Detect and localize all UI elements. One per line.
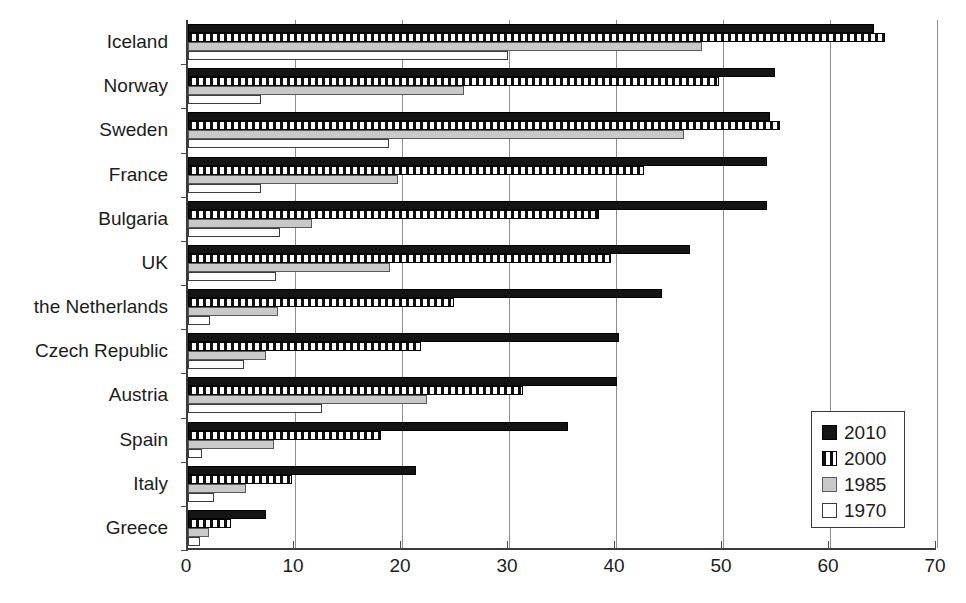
y-axis-tick	[181, 329, 188, 330]
legend-label-2010: 2010	[844, 423, 886, 442]
x-axis-tick-60	[828, 541, 829, 550]
y-label-norway: Norway	[0, 76, 178, 95]
y-axis-tick	[181, 197, 188, 198]
y-label-czech-republic: Czech Republic	[0, 341, 178, 360]
bar-bulgaria-1970	[188, 228, 280, 237]
legend-label-2000: 2000	[844, 449, 886, 468]
bar-uk-1970	[188, 272, 276, 281]
legend-swatch-icon-1985	[822, 477, 837, 492]
x-axis-label-30: 30	[496, 556, 517, 575]
bar-france-2000	[188, 166, 644, 175]
y-axis-tick	[181, 462, 188, 463]
y-label-iceland: Iceland	[0, 32, 178, 51]
legend-item-2000[interactable]: 2000	[812, 445, 904, 471]
x-axis-label-0: 0	[181, 556, 192, 575]
legend-swatch-icon-2000	[822, 451, 837, 466]
legend-label-1985: 1985	[844, 475, 886, 494]
x-axis-tick-0	[186, 541, 187, 550]
bar-austria-1985	[188, 395, 427, 404]
bar-the-netherlands-1970	[188, 316, 210, 325]
bar-the-netherlands-2010	[188, 289, 662, 298]
category-band	[188, 153, 935, 197]
bar-iceland-1985	[188, 42, 702, 51]
legend-label-1970: 1970	[844, 501, 886, 520]
legend-item-1970[interactable]: 1970	[812, 497, 904, 523]
bar-norway-2010	[188, 68, 775, 77]
bar-uk-2010	[188, 245, 690, 254]
x-axis-label-10: 10	[282, 556, 303, 575]
bar-norway-1985	[188, 86, 464, 95]
x-axis-label-40: 40	[603, 556, 624, 575]
bar-greece-1985	[188, 528, 209, 537]
category-band	[188, 197, 935, 241]
bar-greece-2000	[188, 519, 231, 528]
x-axis-tick-10	[293, 541, 294, 550]
y-axis-tick	[181, 285, 188, 286]
category-band	[188, 241, 935, 285]
y-axis-tick	[181, 153, 188, 154]
bar-iceland-2000	[188, 33, 885, 42]
bar-iceland-2010	[188, 24, 874, 33]
bar-spain-1970	[188, 449, 202, 458]
chart-legend: 2010200019851970	[811, 411, 905, 528]
y-axis-tick	[181, 241, 188, 242]
x-axis-label-20: 20	[389, 556, 410, 575]
y-label-italy: Italy	[0, 474, 178, 493]
category-band	[188, 64, 935, 108]
bar-sweden-1985	[188, 130, 684, 139]
bar-france-1970	[188, 184, 261, 193]
bar-italy-1970	[188, 493, 214, 502]
bar-sweden-2010	[188, 112, 770, 121]
bar-czech-republic-2010	[188, 333, 619, 342]
bar-norway-1970	[188, 95, 261, 104]
bar-iceland-1970	[188, 51, 508, 60]
bar-italy-2000	[188, 475, 292, 484]
bar-norway-2000	[188, 77, 719, 86]
x-axis-tick-50	[721, 541, 722, 550]
bar-the-netherlands-2000	[188, 298, 454, 307]
bar-italy-2010	[188, 466, 416, 475]
bar-uk-2000	[188, 254, 611, 263]
bar-sweden-2000	[188, 121, 780, 130]
x-axis: 010203040506070	[186, 550, 935, 590]
y-label-spain: Spain	[0, 430, 178, 449]
bar-austria-2000	[188, 386, 523, 395]
y-label-austria: Austria	[0, 385, 178, 404]
bar-the-netherlands-1985	[188, 307, 278, 316]
category-band	[188, 329, 935, 373]
bar-bulgaria-2010	[188, 201, 767, 210]
legend-item-1985[interactable]: 1985	[812, 471, 904, 497]
y-label-sweden: Sweden	[0, 120, 178, 139]
y-label-the-netherlands: the Netherlands	[0, 297, 178, 316]
bar-spain-2000	[188, 431, 381, 440]
bar-czech-republic-1985	[188, 351, 266, 360]
y-axis-tick	[181, 108, 188, 109]
x-axis-tick-70	[935, 541, 936, 550]
bar-bulgaria-1985	[188, 219, 312, 228]
category-band	[188, 285, 935, 329]
x-axis-label-70: 70	[924, 556, 945, 575]
x-axis-label-60: 60	[817, 556, 838, 575]
bar-france-2010	[188, 157, 767, 166]
y-axis-category-labels: IcelandNorwaySwedenFranceBulgariaUKthe N…	[0, 20, 178, 550]
bar-austria-1970	[188, 404, 322, 413]
y-axis-tick	[181, 506, 188, 507]
legend-swatch-icon-1970	[822, 503, 837, 518]
x-axis-tick-40	[614, 541, 615, 550]
bar-spain-1985	[188, 440, 274, 449]
x-axis-label-50: 50	[710, 556, 731, 575]
plot-right-edge	[937, 20, 938, 548]
bar-chart: IcelandNorwaySwedenFranceBulgariaUKthe N…	[0, 0, 966, 603]
bar-czech-republic-2000	[188, 342, 421, 351]
bar-bulgaria-2000	[188, 210, 599, 219]
bar-greece-1970	[188, 537, 200, 546]
legend-item-2010[interactable]: 2010	[812, 419, 904, 445]
bar-greece-2010	[188, 510, 266, 519]
bar-italy-1985	[188, 484, 246, 493]
y-label-bulgaria: Bulgaria	[0, 209, 178, 228]
y-axis-tick	[181, 373, 188, 374]
bar-austria-2010	[188, 377, 617, 386]
bar-france-1985	[188, 175, 398, 184]
y-axis-tick	[181, 64, 188, 65]
category-band	[188, 108, 935, 152]
